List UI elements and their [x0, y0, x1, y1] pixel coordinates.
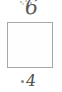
scanned-page: 6 4: [0, 0, 62, 92]
handwritten-digit-bottom: 4: [0, 68, 62, 92]
empty-square-box[interactable]: [7, 22, 53, 68]
ink-speckle-icon: [19, 0, 35, 6]
